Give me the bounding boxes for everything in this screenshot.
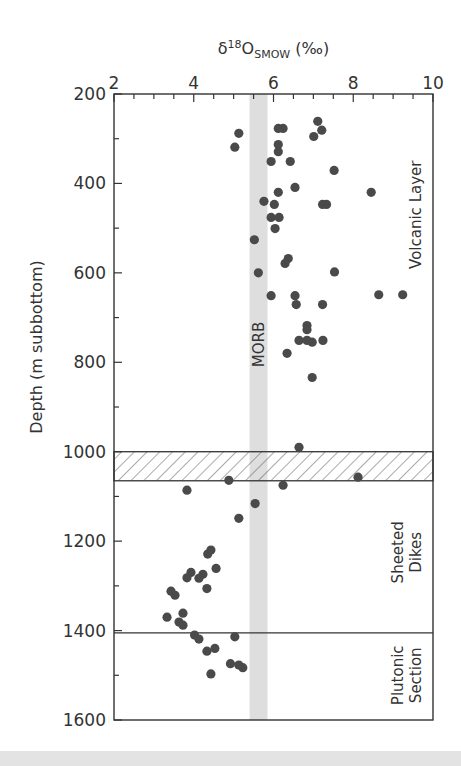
- hatched-zone: [114, 452, 433, 481]
- zone-label: Volcanic Layer: [407, 160, 425, 269]
- data-point: [270, 200, 279, 209]
- data-point: [238, 663, 247, 672]
- data-point: [254, 268, 263, 277]
- y-tick-label: 400: [74, 173, 106, 193]
- y-tick-label: 200: [74, 84, 106, 104]
- morb-band: MORB: [250, 94, 268, 720]
- x-axis-title: δ18OSMOW (‰): [218, 38, 329, 61]
- data-point: [267, 213, 276, 222]
- morb-label: MORB: [250, 322, 268, 367]
- data-point: [282, 349, 291, 358]
- data-point: [182, 486, 191, 495]
- data-point: [182, 573, 191, 582]
- data-point: [330, 166, 339, 175]
- data-point: [234, 129, 243, 138]
- data-point: [206, 669, 215, 678]
- data-point: [202, 584, 211, 593]
- data-point: [274, 188, 283, 197]
- data-point: [353, 473, 362, 482]
- x-tick-label: 10: [422, 73, 444, 93]
- scatter-chart: MORB 2468102004006008001000120014001600 …: [0, 0, 461, 766]
- data-point: [308, 338, 317, 347]
- data-point: [294, 443, 303, 452]
- data-point: [210, 644, 219, 653]
- data-point: [226, 659, 235, 668]
- y-tick-label: 600: [74, 263, 106, 283]
- data-point: [194, 634, 203, 643]
- data-point: [203, 550, 212, 559]
- data-point: [290, 291, 299, 300]
- y-tick-label: 1600: [63, 710, 106, 730]
- data-point: [202, 647, 211, 656]
- data-point: [178, 621, 187, 630]
- data-point: [278, 124, 287, 133]
- data-point: [270, 224, 279, 233]
- zone-label: Dikes: [407, 532, 425, 573]
- data-point: [286, 157, 295, 166]
- plot-frame: [114, 94, 433, 720]
- data-point: [330, 267, 339, 276]
- x-tick-label: 8: [348, 73, 359, 93]
- data-point: [211, 564, 220, 573]
- data-point: [230, 143, 239, 152]
- data-point: [230, 632, 239, 641]
- data-point: [290, 183, 299, 192]
- data-point: [278, 481, 287, 490]
- x-tick-label: 4: [188, 73, 199, 93]
- y-axis-title: Depth (m subbottom): [27, 260, 46, 433]
- data-point: [322, 200, 331, 209]
- zone-label: Plutonic: [389, 645, 407, 705]
- data-point: [302, 325, 311, 334]
- data-point: [234, 514, 243, 523]
- data-points: [162, 117, 407, 679]
- zone-label: Section: [407, 647, 425, 703]
- data-point: [294, 336, 303, 345]
- data-point: [292, 300, 301, 309]
- data-point: [162, 613, 171, 622]
- data-point: [317, 126, 326, 135]
- data-point: [178, 609, 187, 618]
- data-point: [374, 290, 383, 299]
- y-tick-label: 1400: [63, 621, 106, 641]
- data-point: [313, 117, 322, 126]
- bottom-strip: [0, 751, 461, 766]
- data-point: [194, 574, 203, 583]
- data-point: [280, 259, 289, 268]
- data-point: [250, 235, 259, 244]
- data-point: [274, 213, 283, 222]
- x-tick-label: 6: [268, 73, 279, 93]
- hatched-zone-rect: [114, 452, 433, 481]
- y-tick-label: 1000: [63, 442, 106, 462]
- data-point: [267, 157, 276, 166]
- data-point: [318, 300, 327, 309]
- data-point: [251, 499, 260, 508]
- data-point: [274, 147, 283, 156]
- zone-label: Sheeted: [389, 521, 407, 583]
- data-point: [224, 476, 233, 485]
- data-point: [259, 197, 268, 206]
- data-point: [309, 132, 318, 141]
- data-point: [367, 188, 376, 197]
- data-point: [170, 591, 179, 600]
- morb-band-rect: [250, 94, 268, 720]
- data-point: [308, 373, 317, 382]
- data-point: [267, 291, 276, 300]
- data-point: [318, 336, 327, 345]
- data-point: [398, 290, 407, 299]
- x-tick-label: 2: [109, 73, 120, 93]
- y-tick-label: 800: [74, 352, 106, 372]
- y-tick-label: 1200: [63, 531, 106, 551]
